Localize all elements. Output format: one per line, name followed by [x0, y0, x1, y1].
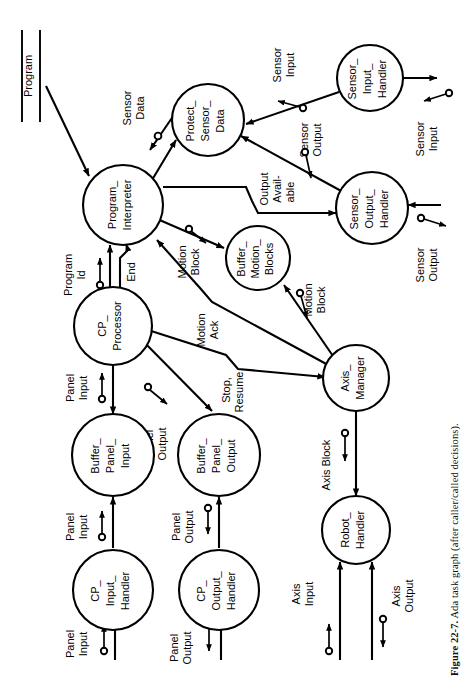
edge-program-to-interpreter	[46, 86, 89, 176]
entry-dot-panel-output-cpoh	[205, 505, 211, 511]
flow-label-axis-input-line1: Axis	[290, 583, 302, 604]
node-buffer-panel-input[interactable]: Buffer_ Panel_ Input	[72, 414, 154, 496]
entry-dot-axis-block	[342, 430, 348, 436]
entry-dot-panel-input-cpih	[99, 534, 105, 540]
flow-label-output-available-line2: Avail-	[271, 175, 283, 203]
node-label-cp-input-handler-line3: Handler	[119, 571, 131, 610]
entry-dot-sensor-input-ext	[446, 90, 452, 96]
flow-label-motion-block-am-line1: Motion	[302, 283, 314, 316]
entry-dot-panel-output-cpp	[145, 384, 151, 390]
node-label-robot-handler-line2: Handler	[354, 510, 366, 549]
flow-label-panel-input-ext-line2: Input	[77, 632, 89, 656]
flow-label-panel-input-cpih-line2: Input	[77, 515, 89, 539]
node-label-sensor-input-handler-line1: Sensor_	[346, 58, 358, 100]
flow-label-axis-output-line2: Output	[403, 579, 415, 612]
flow-label-sensor-data-line2: Data	[134, 96, 146, 120]
node-label-cp-processor-line2: Processor	[111, 301, 123, 351]
flow-label-sensor-data-line1: Sensor	[121, 90, 133, 125]
entry-dot-sensor-output-mid	[302, 149, 308, 155]
node-label-cp-output-handler-line2: Output_	[210, 571, 222, 611]
node-buffer-motion-blocks[interactable]: Buffer_ Motion_ Blocks	[226, 226, 290, 290]
node-label-buffer-motion-blocks-line1: Buffer_	[235, 240, 247, 276]
entry-dot-panel-input-cpp	[99, 396, 105, 402]
edge-external-axis-input: Axis Input	[290, 562, 340, 660]
node-cp-processor[interactable]: CP_ Processor	[74, 287, 152, 365]
flow-label-panel-input-cpih-line1: Panel	[64, 513, 76, 541]
flow-label-panel-output-ext-line1: Panel	[168, 634, 180, 662]
node-label-buffer-panel-output-line1: Buffer_	[195, 437, 207, 473]
edge-sensor-input-handler-to-protect: Sensor Input	[246, 47, 339, 124]
node-axis-manager[interactable]: Axis_ Manager	[323, 345, 389, 411]
flow-label-panel-output-cpp-line2: Output	[156, 427, 168, 460]
entry-dot-sensor-data	[155, 133, 162, 140]
node-label-protect-sensor-data-line1: Protect_	[184, 100, 196, 142]
flow-label-motion-block-pi-line2: Block	[189, 248, 201, 275]
figure-caption-label: Figure 22-7.	[449, 621, 460, 676]
node-label-sensor-input-handler-line3: Handler	[376, 59, 388, 98]
node-label-buffer-panel-output-line3: Output	[225, 439, 237, 472]
node-buffer-panel-output[interactable]: Buffer_ Panel_ Output	[178, 414, 260, 496]
flow-label-motion-ack-line2: Ack	[208, 320, 220, 339]
ada-task-graph-svg: Program Sensor Data Sensor Input Sensor …	[0, 0, 466, 698]
flow-label-program-id-line2: Id	[75, 270, 87, 279]
flow-label-panel-output-ext-line2: Output	[181, 631, 193, 664]
node-label-sensor-output-handler-line2: Output_	[363, 189, 375, 229]
edge-cp-processor-to-axis-manager: Stop, Resume	[148, 330, 325, 412]
entry-dot-sensor-input-top	[300, 105, 306, 111]
node-label-buffer-panel-output-line2: Panel_	[210, 438, 222, 473]
node-label-cp-input-handler-line2: Input_	[104, 575, 116, 606]
flow-label-stop-resume-line2: Resume	[233, 372, 245, 413]
figure-caption-text: Ada task graph (after caller/called deci…	[449, 423, 460, 618]
node-program-interpreter[interactable]: Program_ Interpreter	[83, 165, 163, 245]
node-cp-input-handler[interactable]: CP_ Input_ Handler	[73, 550, 153, 630]
flow-label-program-id-line1: Program	[62, 254, 74, 296]
node-label-axis-manager-line1: Axis_	[339, 364, 351, 392]
flow-label-sensor-input-top-line2: Input	[284, 53, 296, 77]
entry-dot-panel-input-ext	[101, 648, 107, 654]
node-robot-handler[interactable]: Robot_ Handler	[322, 496, 390, 564]
node-label-robot-handler-line1: Robot_	[339, 511, 351, 547]
flow-label-motion-ack-line1: Motion	[195, 313, 207, 346]
flow-label-axis-block: Axis Block	[320, 439, 332, 490]
flow-label-output-available-line3: able	[284, 182, 296, 203]
flow-label-stop-resume-line1: Stop,	[220, 377, 232, 403]
node-label-protect-sensor-data-line2: Sensor_	[199, 100, 211, 142]
flow-label-motion-block-am-line2: Block	[315, 286, 327, 313]
edge-cp-input-handler-to-buffer-panel-input: Panel Input	[64, 497, 113, 548]
node-label-sensor-output-handler-line1: Sensor_	[348, 188, 360, 230]
flow-label-sensor-output-mid-line2: Output	[311, 123, 323, 156]
edge-external-sensor-input: Sensor Input	[403, 78, 452, 156]
edge-sensor-output-handler-to-protect: Sensor Output	[241, 122, 343, 192]
node-label-cp-processor-line1: CP_	[96, 314, 108, 336]
flow-label-sensor-input-ext-line1: Sensor	[414, 121, 426, 156]
node-protect-sensor-data[interactable]: Protect_ Sensor_ Data	[172, 84, 244, 156]
edge-axis-manager-to-robot-handler: Axis Block	[320, 411, 356, 496]
flow-label-panel-output-cpoh-line1: Panel	[170, 513, 182, 541]
node-sensor-input-handler[interactable]: Sensor_ Input_ Handler	[337, 45, 403, 111]
flow-label-axis-output-line1: Axis	[390, 585, 402, 606]
node-label-buffer-panel-input-line1: Buffer_	[89, 437, 101, 473]
entry-dot-program-id	[97, 282, 103, 288]
entry-dot-sensor-output-ext	[418, 215, 424, 221]
figure-root: Program Sensor Data Sensor Input Sensor …	[0, 0, 466, 698]
node-label-protect-sensor-data-line3: Data	[214, 109, 226, 133]
flow-label-sensor-input-ext-line2: Input	[427, 127, 439, 151]
data-store-program: Program	[22, 30, 40, 122]
entry-dot-motion-block-am	[297, 290, 303, 296]
node-label-cp-output-handler-line3: Handler	[225, 571, 237, 610]
flow-label-panel-input-ext-line1: Panel	[64, 630, 76, 658]
entry-dot-motion-block-pi	[186, 226, 192, 232]
edge-external-axis-output: Axis Output	[372, 562, 415, 660]
node-label-sensor-input-handler-line2: Input_	[361, 63, 373, 94]
node-sensor-output-handler[interactable]: Sensor_ Output_ Handler	[336, 172, 408, 244]
edge-external-sensor-output: Sensor Output	[408, 205, 446, 282]
flow-label-sensor-output-ext-line1: Sensor	[414, 247, 426, 282]
flow-label-sensor-input-top-line1: Sensor	[271, 47, 283, 82]
entry-dot-axis-output	[380, 616, 386, 622]
edge-cp-output-handler-to-buffer-panel-output: Panel Output	[170, 497, 219, 548]
node-label-buffer-panel-input-line3: Input	[119, 444, 131, 468]
edge-interpreter-to-sensor-output-handler: Output Avail- able	[163, 172, 336, 213]
node-label-buffer-motion-blocks-line3: Blocks	[263, 242, 275, 275]
node-cp-output-handler[interactable]: CP_ Output_ Handler	[179, 550, 259, 630]
node-label-sensor-output-handler-line3: Handler	[378, 189, 390, 228]
